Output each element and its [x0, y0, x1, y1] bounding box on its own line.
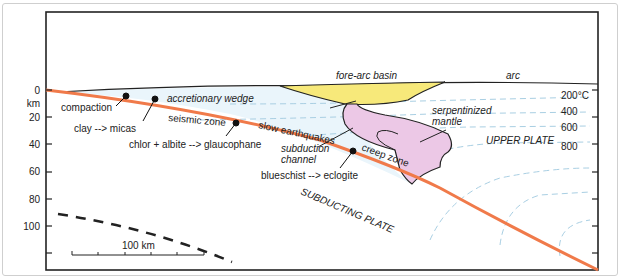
- label-compaction: compaction: [61, 102, 112, 113]
- depth-tick-60: 60: [29, 166, 41, 177]
- label-arc: arc: [506, 70, 520, 81]
- label-fore-arc-basin: fore-arc basin: [336, 70, 398, 81]
- depth-tick-20: 20: [29, 112, 41, 123]
- label-serpentinized: serpentinized: [432, 105, 492, 116]
- label-channel: channel: [281, 154, 317, 165]
- subduction-diagram: 0 km 20 40 60 80 100 100 km 200°C 400 60…: [0, 0, 622, 278]
- label-upper-plate: UPPER PLATE: [486, 135, 554, 146]
- label-clay-micas: clay --> micas: [74, 123, 136, 134]
- depth-tick-40: 40: [29, 139, 41, 150]
- scale-bar: [72, 251, 204, 255]
- isotherm-label-400: 400: [561, 106, 578, 117]
- label-subducting-plate: SUBDUCTING PLATE: [299, 186, 395, 235]
- label-mantle: mantle: [432, 116, 462, 127]
- depth-tick-0: 0: [34, 85, 40, 96]
- isotherm-label-600: 600: [561, 122, 578, 133]
- label-blueschist-eclogite: blueschist --> eclogite: [261, 170, 358, 181]
- scale-bar-label: 100 km: [122, 240, 155, 251]
- label-accretionary-wedge: accretionary wedge: [167, 93, 254, 104]
- depth-unit-label: km: [27, 98, 40, 109]
- depth-tick-80: 80: [29, 194, 41, 205]
- label-seismic-zone: seismic zone: [168, 112, 227, 128]
- isotherm-label-800: 800: [561, 141, 578, 152]
- isotherm-label-200: 200°C: [561, 90, 589, 101]
- label-chlor-glaucophane: chlor + albite --> glaucophane: [129, 139, 262, 150]
- depth-tick-100: 100: [23, 221, 40, 232]
